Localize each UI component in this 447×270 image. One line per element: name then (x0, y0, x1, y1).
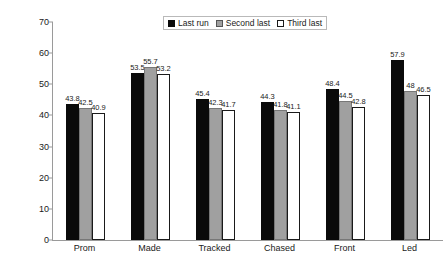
y-axis-tick-label: 40 (39, 110, 49, 120)
bar[interactable] (79, 108, 92, 240)
bar-slot: 48.4 (326, 22, 339, 240)
bar[interactable] (352, 107, 365, 240)
bar-chart: Percentage who set the pa Last run Secon… (0, 0, 447, 270)
bar-slot: 46.5 (417, 22, 430, 240)
bar-group: 44.341.841.1 (248, 22, 313, 240)
bar[interactable] (391, 60, 404, 240)
y-axis-tick-label: 30 (39, 142, 49, 152)
bar[interactable] (417, 95, 430, 240)
bar[interactable] (144, 67, 157, 240)
bar-slot: 40.9 (92, 22, 105, 240)
bar[interactable] (261, 102, 274, 240)
x-axis-tick-label: Chased (247, 243, 312, 253)
bar[interactable] (157, 74, 170, 240)
bar-slot: 42.3 (209, 22, 222, 240)
bar-value-label: 48 (406, 81, 414, 90)
x-axis-tick-label: Tracked (182, 243, 247, 253)
bar-slot: 43.8 (66, 22, 79, 240)
bar-slot: 41.7 (222, 22, 235, 240)
bar[interactable] (66, 104, 79, 240)
bar-slot: 44.5 (339, 22, 352, 240)
bar-group: 48.444.542.8 (313, 22, 378, 240)
bar-slot: 41.1 (287, 22, 300, 240)
bar[interactable] (339, 101, 352, 240)
bar[interactable] (131, 73, 144, 240)
x-axis-labels: PromMadeTrackedChasedFrontLed (52, 243, 442, 253)
bar-value-label: 40.9 (91, 103, 106, 112)
bar-slot: 42.5 (79, 22, 92, 240)
y-axis-tick-label: 50 (39, 79, 49, 89)
bar-value-label: 41.1 (286, 102, 301, 111)
bar-value-label: 48.4 (325, 79, 340, 88)
bar-value-label: 41.7 (221, 100, 236, 109)
x-axis-tick-label: Front (312, 243, 377, 253)
bar-value-label: 46.5 (416, 85, 431, 94)
bar[interactable] (326, 89, 339, 240)
y-axis-tick-label: 60 (39, 48, 49, 58)
bar-group: 45.442.341.7 (183, 22, 248, 240)
bar-slot: 48 (404, 22, 417, 240)
y-axis-tick-label: 10 (39, 204, 49, 214)
y-axis-tick-label: 20 (39, 173, 49, 183)
bar[interactable] (92, 113, 105, 240)
bar-slot: 41.8 (274, 22, 287, 240)
bar-group: 53.555.753.2 (118, 22, 183, 240)
y-axis-tick-label: 70 (39, 17, 49, 27)
bar[interactable] (274, 110, 287, 240)
bar[interactable] (209, 108, 222, 240)
bar-slot: 42.8 (352, 22, 365, 240)
bar[interactable] (222, 110, 235, 240)
x-axis-tick-label: Led (377, 243, 442, 253)
bar-value-label: 42.8 (351, 97, 366, 106)
bar-slot: 44.3 (261, 22, 274, 240)
bar-value-label: 45.4 (195, 89, 210, 98)
bar[interactable] (287, 112, 300, 240)
bar-value-label: 53.2 (156, 64, 171, 73)
bar-slot: 53.2 (157, 22, 170, 240)
x-axis-tick-label: Prom (52, 243, 117, 253)
bar[interactable] (404, 91, 417, 240)
bar-slot: 57.9 (391, 22, 404, 240)
bar-slot: 53.5 (131, 22, 144, 240)
bar-group: 57.94846.5 (378, 22, 443, 240)
plot-area: 010203040506070 43.842.540.953.555.753.2… (52, 22, 443, 241)
bar[interactable] (196, 99, 209, 240)
bar-slot: 55.7 (144, 22, 157, 240)
x-axis-tick-label: Made (117, 243, 182, 253)
bar-groups: 43.842.540.953.555.753.245.442.341.744.3… (53, 22, 443, 240)
bar-value-label: 57.9 (390, 50, 405, 59)
y-axis-title: Percentage who set the pa (11, 0, 33, 33)
bar-slot: 45.4 (196, 22, 209, 240)
bar-group: 43.842.540.9 (53, 22, 118, 240)
